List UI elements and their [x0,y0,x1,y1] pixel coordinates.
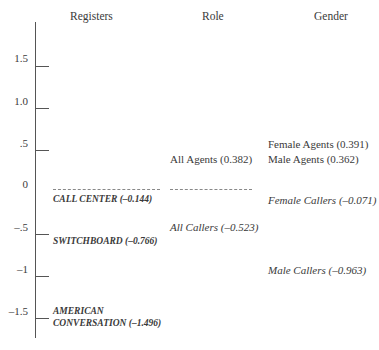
tick-label: 1.5 [0,52,28,64]
label-male-agents: Male Agents (0.362) [268,153,359,165]
label-all-callers: All Callers (–0.523) [170,221,258,233]
tick-mark [35,66,49,67]
tick-mark [35,318,49,319]
tick-label: 1.0 [0,95,28,107]
tick-mark [35,276,49,277]
label-female-callers: Female Callers (–0.071) [268,194,376,206]
tick-label: –.5 [0,221,28,233]
header-registers: Registers [70,10,113,22]
header-role: Role [202,10,224,22]
label-all-agents: All Agents (0.382) [170,153,252,165]
label-switchboard: SWITCHBOARD (–0.766) [53,236,158,246]
label-american-line2: CONVERSATION (–1.496) [53,318,161,328]
header-gender: Gender [314,10,348,22]
tick-label: –1 [0,263,28,275]
label-male-callers: Male Callers (–0.963) [268,264,366,276]
y-axis-line [35,22,36,338]
tick-label: 0 [0,178,28,190]
label-call-center: CALL CENTER (–0.144) [53,194,152,204]
zero-line-registers [53,189,160,190]
tick-label: .5 [0,137,28,149]
tick-mark [35,234,49,235]
label-female-agents: Female Agents (0.391) [268,138,369,150]
tick-mark [35,108,49,109]
tick-label: –1.5 [0,305,28,317]
tick-mark [35,150,49,151]
label-american-line1: AMERICAN [53,306,104,316]
zero-line-role [170,189,252,190]
